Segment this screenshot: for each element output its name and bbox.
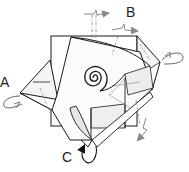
origami-diagram [0, 0, 189, 172]
label-a: A [0, 75, 9, 89]
arrow-b-lower [112, 24, 137, 31]
label-c: C [62, 150, 72, 164]
arrow-b-upper [84, 10, 108, 15]
folded-layer [52, 37, 153, 147]
arrow-c [82, 146, 96, 163]
label-b: B [126, 5, 135, 19]
